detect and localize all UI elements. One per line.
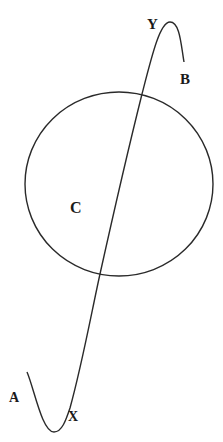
label-a: A [9, 391, 19, 405]
label-c: C [70, 200, 82, 216]
circle-c [25, 92, 213, 276]
label-x: X [68, 410, 78, 424]
curve-a-to-b [27, 22, 184, 432]
label-b: B [180, 72, 190, 87]
label-y: Y [147, 17, 158, 32]
diagram-canvas [0, 0, 223, 442]
